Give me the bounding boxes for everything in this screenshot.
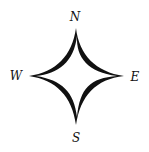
south-label: S — [72, 132, 80, 144]
compass-star-inner — [36, 36, 117, 117]
north-label: N — [70, 11, 81, 23]
west-label: W — [10, 70, 22, 82]
east-label: E — [131, 71, 140, 83]
compass-rose: N E S W — [0, 0, 149, 152]
